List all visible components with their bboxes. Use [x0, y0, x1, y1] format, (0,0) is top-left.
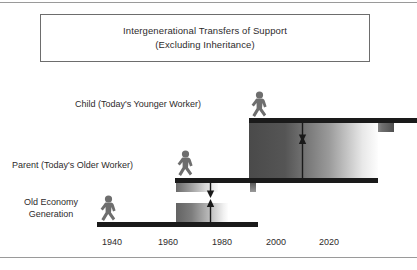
year-tick-label-0: 1940: [95, 236, 129, 248]
figure-intergenerational-transfers: Intergenerational Transfers of Support (…: [0, 0, 417, 270]
transfer-block-stub: [250, 183, 256, 192]
row-label-parent: Parent (Today's Older Worker): [12, 159, 133, 171]
transfer-block-parent-to-old-economy: [176, 203, 228, 222]
arrow-up-old-economy-to-parent-icon: [206, 199, 215, 223]
row-label-old-economy: Old Economy Generation: [16, 196, 86, 220]
figure-title-line-2: (Excluding Inheritance): [155, 38, 254, 52]
transfer-block-child-to-parent: [249, 123, 378, 178]
year-tick-label-3: 2000: [259, 236, 293, 248]
figure-title-line-1: Intergenerational Transfers of Support: [123, 24, 287, 38]
arrow-up-parent-to-child-icon: [298, 136, 307, 179]
arrow-down-parent-to-old-economy-icon: [206, 181, 215, 198]
walking-person-icon-old-economy: [95, 195, 119, 224]
row-label-old-economy-line-2: Generation: [16, 208, 86, 220]
row-label-old-economy-line-1: Old Economy: [16, 196, 86, 208]
walking-person-icon-child: [246, 91, 270, 120]
year-tick-label-4: 2020: [312, 236, 346, 248]
row-label-child: Child (Today's Younger Worker): [75, 98, 201, 110]
figure-title-box: Intergenerational Transfers of Support (…: [40, 14, 370, 62]
walking-person-icon-parent: [172, 150, 196, 179]
baseline-child: [249, 118, 417, 123]
year-tick-label-1: 1960: [151, 236, 185, 248]
bottom-divider-rule: [0, 257, 417, 258]
top-divider-rule: [0, 2, 417, 3]
year-axis: 1940 1960 1980 2000 2020: [0, 236, 417, 250]
year-tick-label-2: 1980: [205, 236, 239, 248]
baseline-old-economy: [97, 222, 258, 227]
